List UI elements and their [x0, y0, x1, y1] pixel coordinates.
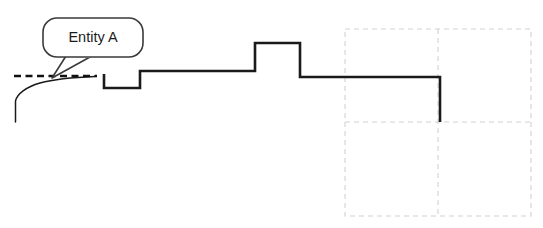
callout-label: Entity A: [68, 29, 117, 45]
dashed-grid: [345, 29, 531, 216]
step-profile-line: [104, 43, 440, 122]
diagram-svg: Entity A: [0, 0, 543, 228]
diagram-canvas: Entity A: [0, 0, 543, 228]
thin-curve: [16, 76, 96, 122]
